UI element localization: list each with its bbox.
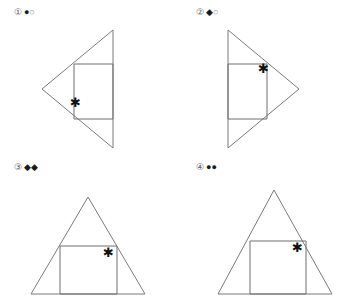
- figure-panel-3: ③ ◆ ◆ ✱: [0, 155, 181, 308]
- panel-3-svg: [0, 155, 181, 308]
- triangle-outline: [218, 190, 332, 294]
- panel-2-figure: ✱: [182, 0, 363, 154]
- panel-2-svg: [182, 0, 363, 154]
- angle-marker-asterisk: ✱: [258, 62, 269, 75]
- angle-marker-asterisk: ✱: [103, 246, 114, 259]
- panel-1-figure: ✱: [0, 0, 181, 154]
- figure-panel-1: ① ● ○ ✱: [0, 0, 181, 154]
- triangle-outline: [42, 30, 113, 148]
- inscribed-rectangle: [74, 64, 113, 119]
- panel-3-figure: ✱: [0, 155, 181, 308]
- angle-marker-asterisk: ✱: [292, 241, 303, 254]
- figure-panel-2: ② ◆ ○ ✱: [182, 0, 363, 154]
- panel-4-figure: ✱: [182, 155, 363, 308]
- worksheet-canvas: ① ● ○ ✱ ② ◆ ○ ✱: [0, 0, 363, 308]
- panel-1-svg: [0, 0, 181, 154]
- figure-panel-4: ④ ● ● ✱: [182, 155, 363, 308]
- triangle-outline: [228, 30, 299, 148]
- panel-4-svg: [182, 155, 363, 308]
- angle-marker-asterisk: ✱: [70, 96, 81, 109]
